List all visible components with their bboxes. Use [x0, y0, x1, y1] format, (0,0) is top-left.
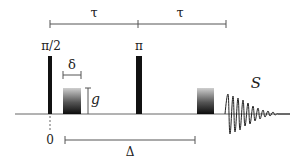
time-zero-label: 0: [46, 133, 54, 147]
delta-small-label: δ: [68, 57, 76, 72]
pulse-90-label: π/2: [41, 39, 61, 53]
gradient-pulse-2: [197, 88, 214, 114]
tau-timeline: [50, 20, 226, 28]
gradient-label: g: [91, 91, 100, 107]
pulse-180-label: π: [135, 39, 143, 53]
pulse-180: [136, 56, 142, 114]
delta-big-label: Δ: [126, 145, 135, 159]
tau-label-2: τ: [176, 5, 183, 20]
tau-label-1: τ: [90, 5, 97, 20]
pulse-90: [48, 56, 52, 114]
signal-label: S: [251, 74, 261, 92]
delta-small-bracket: [63, 71, 81, 79]
delta-big-bracket: [65, 136, 195, 144]
gradient-pulse-1: [63, 88, 81, 114]
pulse-sequence-diagram: τ τ π/2 0 δ g π Δ S: [0, 0, 302, 161]
